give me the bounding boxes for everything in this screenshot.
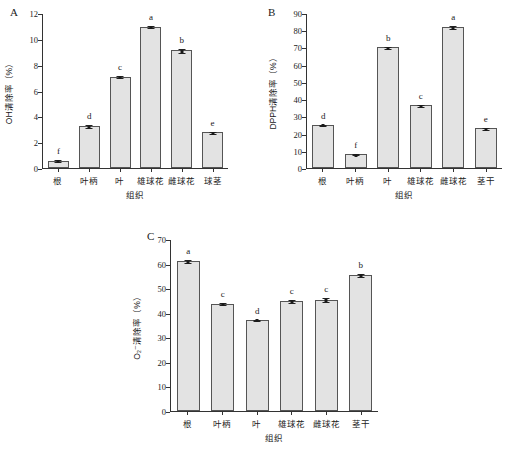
y-tick-mark xyxy=(38,40,42,41)
error-bar xyxy=(482,128,489,131)
x-axis-tick-label: 雌球花 xyxy=(437,174,470,186)
y-tick-mark xyxy=(38,117,42,118)
x-axis-labels-b: 根叶柄叶雄球花雌球花茎干 xyxy=(306,174,502,186)
bar-group-b: dfbcae xyxy=(307,14,502,168)
error-bar-cap-bottom xyxy=(323,302,330,303)
bar-slot: b xyxy=(166,14,197,168)
mean-marker xyxy=(325,299,328,302)
y-tick-label: 4 xyxy=(34,112,38,122)
y-tick-label: 8 xyxy=(34,61,38,71)
mean-marker xyxy=(187,261,190,264)
significance-letter: c xyxy=(419,91,423,101)
bar-slot: a xyxy=(437,14,470,168)
error-bar xyxy=(288,300,295,304)
mean-marker xyxy=(211,132,214,135)
y-tick-label: 80 xyxy=(294,26,303,36)
y-tick-mark xyxy=(166,289,170,290)
x-axis-title-a: 组织 xyxy=(42,188,228,200)
x-tick-mark xyxy=(306,169,339,173)
bar[interactable] xyxy=(48,161,69,168)
significance-letter: c xyxy=(290,286,294,296)
bar[interactable] xyxy=(246,320,269,411)
y-tick-label: 10 xyxy=(158,382,167,392)
bar[interactable] xyxy=(377,47,399,168)
x-axis-tick-label: 叶柄 xyxy=(205,417,240,429)
mean-marker xyxy=(57,160,60,163)
x-tick-mark xyxy=(371,169,404,173)
bar[interactable] xyxy=(202,132,223,168)
significance-letter: b xyxy=(359,260,364,270)
chart-panel-c: C acdccb010203040506070根叶柄叶雄球花雌球花茎干组织O₂⁻… xyxy=(125,226,395,466)
bar-slot: b xyxy=(372,14,405,168)
x-axis-tick-label: 根 xyxy=(170,417,205,429)
mean-marker xyxy=(221,303,224,306)
mean-marker xyxy=(322,124,325,127)
bar[interactable] xyxy=(171,50,192,168)
bar[interactable] xyxy=(410,105,432,168)
bar[interactable] xyxy=(475,128,497,168)
mean-marker xyxy=(149,26,152,29)
x-axis-tick-label: 叶柄 xyxy=(339,174,372,186)
bar-slot: c xyxy=(206,240,241,411)
x-axis-labels-c: 根叶柄叶雄球花雌球花茎干 xyxy=(170,417,378,429)
x-axis-tick-label: 茎干 xyxy=(469,174,502,186)
mean-marker xyxy=(88,126,91,129)
y-tick-mark xyxy=(38,92,42,93)
x-tick-mark xyxy=(437,169,470,173)
bar[interactable] xyxy=(140,27,161,168)
y-tick-label: 50 xyxy=(294,78,303,88)
bar[interactable] xyxy=(79,126,100,168)
significance-letter: c xyxy=(221,289,225,299)
y-tick-label: 70 xyxy=(158,235,167,245)
bar[interactable] xyxy=(211,304,234,411)
mean-marker xyxy=(484,128,487,131)
x-axis-tick-label: 叶 xyxy=(104,174,135,186)
x-tick-mark xyxy=(343,412,378,416)
x-tick-mark xyxy=(104,169,135,173)
y-tick-label: 0 xyxy=(34,164,38,174)
y-tick-label: 20 xyxy=(158,358,167,368)
bar-slot: a xyxy=(135,14,166,168)
y-axis-title-a: OH清除率（%） xyxy=(2,14,14,169)
bar-slot: d xyxy=(240,240,275,411)
error-bar xyxy=(178,49,185,55)
x-axis-tick-label: 根 xyxy=(306,174,339,186)
significance-letter: f xyxy=(57,146,60,156)
x-axis-title-c: 组织 xyxy=(170,431,378,443)
bar-slot: e xyxy=(197,14,228,168)
x-tick-mark xyxy=(469,169,502,173)
x-tick-mark xyxy=(239,412,274,416)
y-tick-label: 30 xyxy=(158,333,167,343)
bar[interactable] xyxy=(315,300,338,411)
mean-marker xyxy=(359,274,362,277)
error-bar xyxy=(450,26,457,30)
bar[interactable] xyxy=(349,275,372,411)
y-tick-mark xyxy=(302,66,306,67)
bar-slot: e xyxy=(470,14,503,168)
bar[interactable] xyxy=(442,27,464,168)
bar[interactable] xyxy=(312,125,334,168)
significance-letter: b xyxy=(179,35,184,45)
bar-slot: c xyxy=(309,240,344,411)
y-tick-label: 0 xyxy=(162,407,166,417)
y-tick-label: 30 xyxy=(294,112,303,122)
bar[interactable] xyxy=(177,261,200,411)
mean-marker xyxy=(256,319,259,322)
bar[interactable] xyxy=(345,154,367,168)
x-tick-marks-c xyxy=(170,412,378,416)
y-tick-mark xyxy=(38,143,42,144)
bar[interactable] xyxy=(110,77,131,168)
error-bar xyxy=(219,303,226,305)
y-tick-label: 10 xyxy=(30,35,39,45)
significance-letter: a xyxy=(149,12,153,22)
y-tick-label: 50 xyxy=(158,284,167,294)
bar-slot: c xyxy=(105,14,136,168)
chart-panel-a: A fdcabe024681012根叶柄叶雄球花雌球花球茎组织OH清除率（%） xyxy=(0,0,250,225)
y-tick-label: 2 xyxy=(34,138,38,148)
error-bar-cap-bottom xyxy=(178,53,185,54)
bar-group-c: acdccb xyxy=(171,240,378,411)
x-tick-marks-b xyxy=(306,169,502,173)
x-axis-tick-label: 雌球花 xyxy=(309,417,344,429)
bar[interactable] xyxy=(280,301,303,411)
x-axis-title-b: 组织 xyxy=(306,188,502,200)
